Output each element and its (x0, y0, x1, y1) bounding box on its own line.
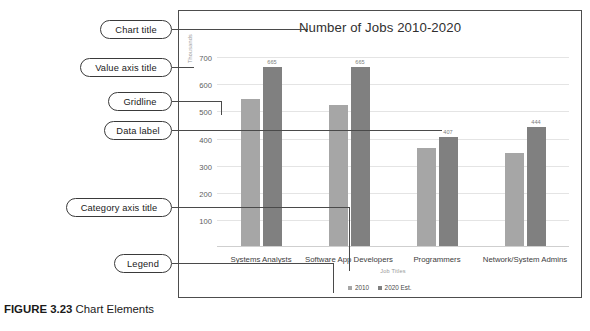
callout-category-axis-title: Category axis title (66, 198, 172, 217)
data-label: 407 (443, 129, 452, 135)
callout-label: Legend (127, 259, 159, 269)
bar-group: 407 (393, 49, 481, 247)
callout-label: Category axis title (81, 203, 158, 213)
leader-value-axis-title (172, 67, 194, 68)
data-label: 665 (355, 59, 364, 65)
bar[interactable] (417, 148, 436, 247)
leader-data-label (172, 130, 442, 131)
figure-number: FIGURE 3.23 (4, 303, 72, 315)
value-axis-tick: 700 (199, 54, 212, 63)
bar[interactable]: 444 (527, 127, 546, 247)
value-axis-tick: 200 (199, 189, 212, 198)
legend-item[interactable]: 2020 Est. (378, 284, 412, 291)
legend-label: 2020 Est. (385, 284, 412, 291)
leader-category-axis-title (172, 207, 350, 271)
callout-label: Gridline (123, 97, 156, 107)
legend-swatch (378, 286, 382, 290)
category-label: Programmers (393, 255, 481, 264)
category-label: Network/System Admins (481, 255, 569, 264)
figure-caption-text: Chart Elements (76, 303, 155, 315)
bar[interactable]: 407 (439, 137, 458, 247)
bar-group: 444 (481, 49, 569, 247)
callout-gridline: Gridline (108, 92, 172, 111)
leader-gridline (172, 101, 222, 115)
callout-label: Data label (116, 126, 159, 136)
data-label: 665 (267, 59, 276, 65)
value-axis-title: Thousands (187, 34, 193, 63)
value-axis-tick: 600 (199, 81, 212, 90)
chart-title: Number of Jobs 2010-2020 (179, 20, 581, 35)
leader-legend (172, 263, 334, 293)
callout-legend: Legend (114, 254, 172, 273)
callout-label: Value axis title (95, 63, 157, 73)
callout-data-label: Data label (104, 121, 172, 140)
figure-caption: FIGURE 3.23 Chart Elements (4, 303, 154, 315)
callout-value-axis-title: Value axis title (80, 58, 172, 77)
bar[interactable] (505, 153, 524, 247)
callout-label: Chart title (115, 25, 156, 35)
callout-chart-title: Chart title (100, 20, 172, 39)
value-axis-tick: 300 (199, 162, 212, 171)
legend-label: 2010 (355, 284, 369, 291)
data-label: 444 (531, 119, 540, 125)
value-axis-tick: 400 (199, 135, 212, 144)
legend-item[interactable]: 2010 (348, 284, 369, 291)
legend-swatch (348, 286, 352, 290)
leader-chart-title (172, 29, 308, 30)
bar[interactable]: 665 (351, 67, 370, 247)
